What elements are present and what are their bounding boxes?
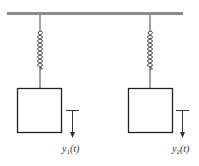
ceiling-bar [7,12,183,15]
right-spring [148,15,153,88]
right-displacement-arrow [176,111,189,139]
y1-label: y1(t) [62,143,79,156]
right-mass-block [129,89,173,133]
y1-arg: (t) [70,143,79,154]
y2-arg: (t) [180,143,189,154]
left-displacement-arrow [66,111,79,139]
spring-mass-diagram [0,0,199,166]
y2-label: y2(t) [172,143,189,156]
left-mass-block [18,89,62,133]
left-spring [38,15,43,88]
